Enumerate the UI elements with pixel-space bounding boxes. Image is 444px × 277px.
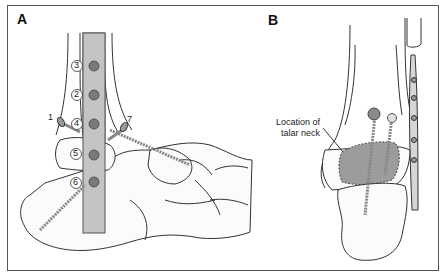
panel-b-label: B xyxy=(268,12,278,28)
annotation-line-1: Location of xyxy=(252,117,320,128)
panel-b-illustration xyxy=(321,18,421,260)
side-screw-label-1: 1 xyxy=(48,112,53,122)
illustration-canvas xyxy=(0,0,444,277)
screw-number-3: 3 xyxy=(74,60,79,70)
screw-number-4: 4 xyxy=(74,118,79,128)
side-screw-label-7: 7 xyxy=(127,114,132,124)
panel-a-label: A xyxy=(17,11,27,27)
talar-neck-annotation: Location of talar neck xyxy=(252,117,320,139)
annotation-line-2: talar neck xyxy=(252,128,320,139)
screw-number-2: 2 xyxy=(74,89,79,99)
panel-a-illustration xyxy=(21,33,252,251)
screw-number-6: 6 xyxy=(73,177,78,187)
screw-number-5: 5 xyxy=(73,148,78,158)
